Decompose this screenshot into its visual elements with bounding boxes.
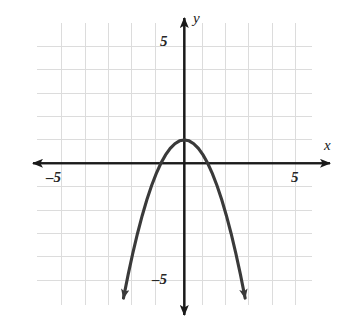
x-axis-name-label: x (324, 138, 331, 153)
x-axis-tick-label-positive-five: 5 (291, 170, 299, 185)
y-axis-tick-label-negative-five: –5 (152, 272, 167, 287)
y-axis-tick-label-positive-five: 5 (160, 34, 168, 49)
coordinate-plane-figure: 5 –5 5 –5 x y (0, 0, 355, 330)
y-axis-name-label: y (193, 11, 200, 26)
graph-canvas (0, 0, 355, 330)
x-axis-tick-label-negative-five: –5 (46, 170, 61, 185)
